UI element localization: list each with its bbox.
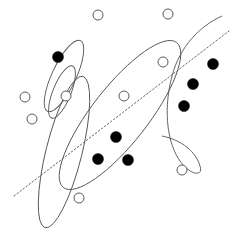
data-point-hollow [27, 114, 37, 124]
data-point-filled [111, 132, 122, 143]
contour-inner-tiny [43, 63, 81, 122]
contour-group [28, 16, 222, 232]
data-point-filled [93, 154, 104, 165]
data-point-filled [123, 155, 134, 166]
data-point-filled [53, 52, 64, 63]
data-point-hollow [158, 57, 168, 67]
data-point-filled [208, 59, 219, 70]
data-point-hollow [20, 92, 30, 102]
data-point-hollow [177, 165, 187, 175]
scatter-plot-canvas [0, 0, 233, 241]
data-point-hollow [61, 91, 71, 101]
dotted-decision-boundary [14, 31, 229, 196]
data-point-hollow [74, 193, 84, 203]
data-point-hollow [93, 10, 103, 20]
data-point-hollow [119, 91, 129, 101]
figure-root [0, 0, 233, 241]
decision-boundary-group [14, 31, 229, 196]
class-a-hollow-points [20, 9, 187, 203]
data-point-hollow [163, 9, 173, 19]
data-point-filled [179, 101, 190, 112]
data-point-filled [188, 79, 199, 90]
class-b-filled-points [53, 52, 219, 166]
contour-right-crescent [162, 16, 222, 173]
